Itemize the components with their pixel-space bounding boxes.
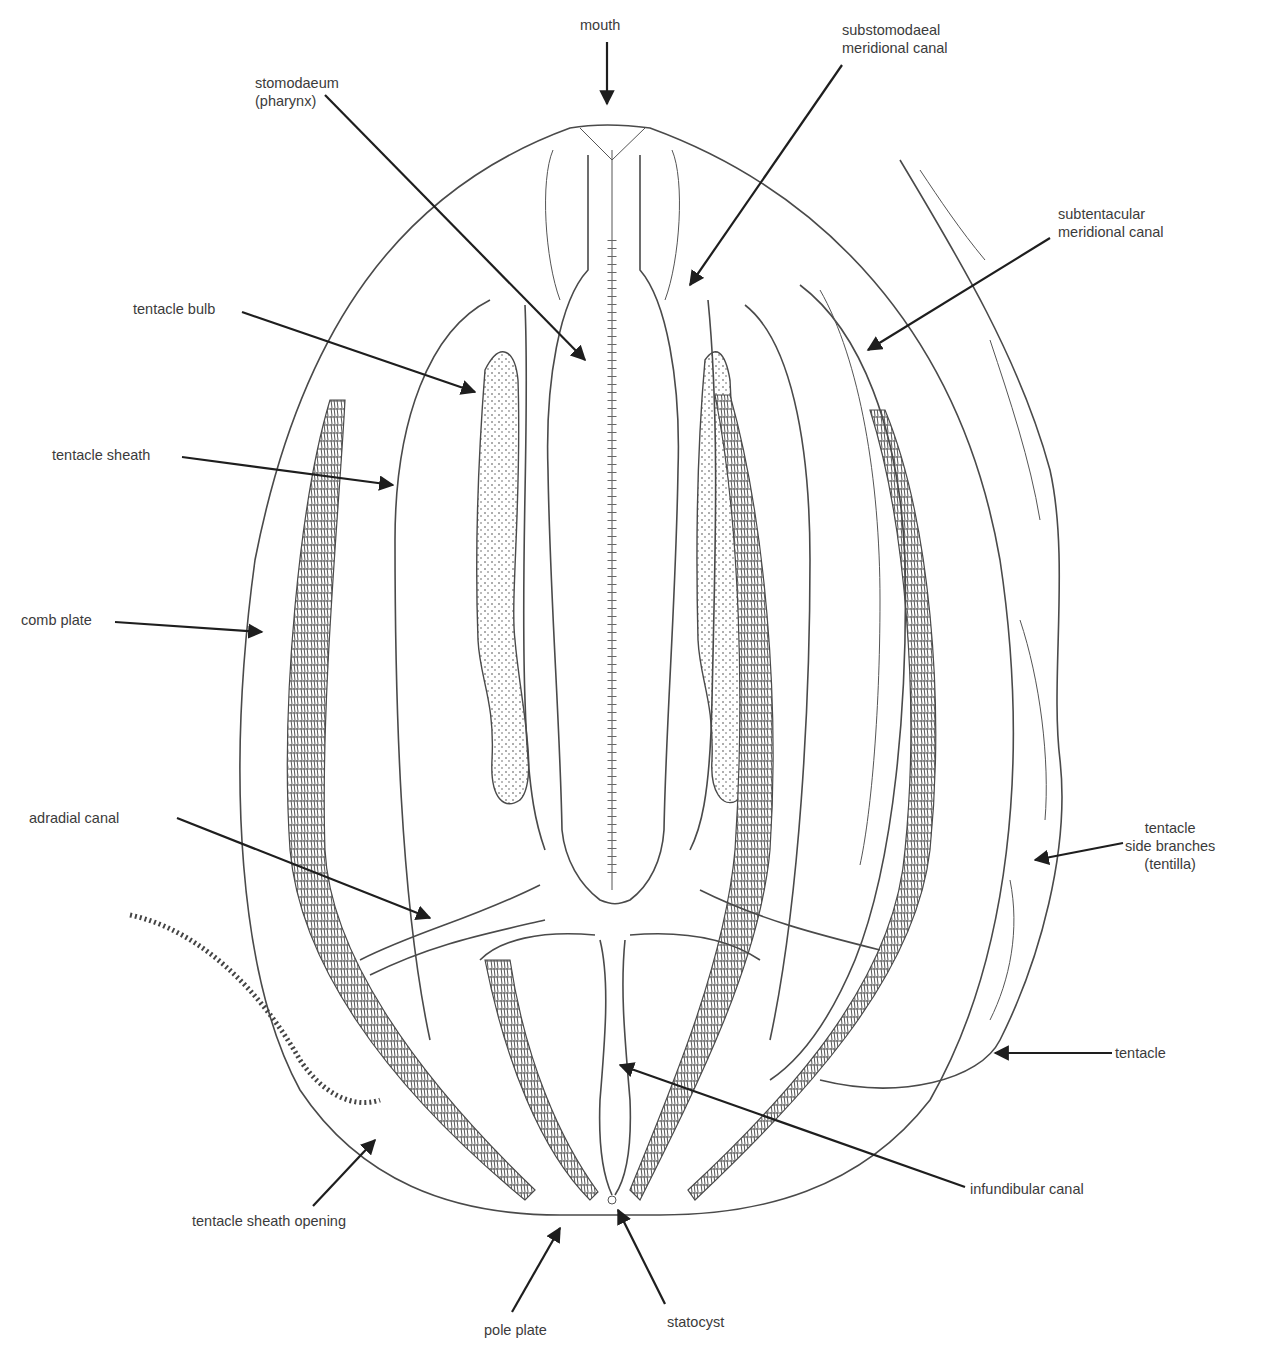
- ctenophore-diagram: [0, 0, 1265, 1358]
- label-tentacle-side-branches: tentacle side branches (tentilla): [1125, 819, 1215, 873]
- label-tentacle: tentacle: [1115, 1044, 1166, 1062]
- tentacle-bulbs: [477, 352, 749, 804]
- label-comb-plate: comb plate: [21, 611, 92, 629]
- canal-system: [360, 885, 880, 1204]
- stomodaeum-shape: [546, 128, 680, 904]
- label-statocyst: statocyst: [667, 1313, 724, 1331]
- label-tentacle-bulb: tentacle bulb: [133, 300, 215, 318]
- label-substomodaeal-meridional-canal: substomodaeal meridional canal: [842, 21, 948, 57]
- label-stomodaeum: stomodaeum (pharynx): [255, 74, 339, 110]
- tentacle-right: [820, 160, 1062, 1088]
- label-pole-plate: pole plate: [484, 1321, 547, 1339]
- label-adradial-canal: adradial canal: [29, 809, 119, 827]
- arrows: [115, 42, 1123, 1312]
- label-tentacle-sheath-opening: tentacle sheath opening: [192, 1212, 346, 1230]
- label-mouth: mouth: [580, 16, 620, 34]
- label-subtentacular-meridional-canal: subtentacular meridional canal: [1058, 205, 1164, 241]
- label-tentacle-sheath: tentacle sheath: [52, 446, 150, 464]
- label-infundibular-canal: infundibular canal: [970, 1180, 1084, 1198]
